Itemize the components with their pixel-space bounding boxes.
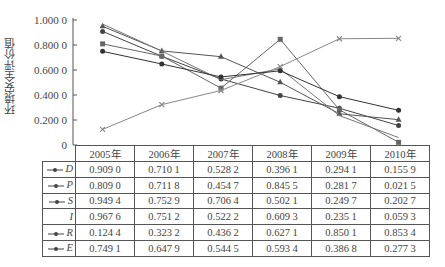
series-line-p bbox=[103, 39, 399, 142]
table-cell: 0.967 6 bbox=[76, 209, 135, 225]
table-cell: 0.386 8 bbox=[312, 240, 371, 256]
table-header-cell: 2010年 bbox=[371, 146, 430, 162]
table-cell: 0.751 2 bbox=[135, 209, 194, 225]
table-row: R0.124 40.323 20.436 20.627 10.850 10.85… bbox=[43, 225, 430, 241]
legend-entry-i: I bbox=[43, 209, 76, 225]
table-cell: 0.124 4 bbox=[76, 225, 135, 241]
table-cell: 0.609 3 bbox=[253, 209, 312, 225]
series-line-i bbox=[103, 24, 399, 138]
series-line-s bbox=[103, 26, 399, 119]
data-point-s bbox=[396, 116, 402, 122]
legend-entry-d: D bbox=[43, 162, 76, 178]
table-cell: 0.059 3 bbox=[371, 209, 430, 225]
series-line-e bbox=[103, 51, 399, 110]
y-tick-label: 0.400 0 bbox=[34, 89, 68, 101]
table-row: P0.809 00.711 80.454 70.845 50.281 70.02… bbox=[43, 177, 430, 193]
legend-marker-icon bbox=[48, 228, 64, 239]
legend-marker-icon bbox=[48, 180, 64, 191]
y-axis-label: 环境安全评价值 bbox=[2, 22, 18, 132]
data-point-e bbox=[278, 68, 283, 73]
data-point-e bbox=[337, 94, 342, 99]
table-cell: 0.710 1 bbox=[135, 162, 194, 178]
data-point-p bbox=[278, 37, 283, 42]
table-cell: 0.454 7 bbox=[194, 177, 253, 193]
series-line-r bbox=[103, 38, 399, 129]
table-cell: 0.294 1 bbox=[312, 162, 371, 178]
table-cell: 0.544 5 bbox=[194, 240, 253, 256]
data-table: 2005年2006年2007年2008年2009年2010年 D0.909 00… bbox=[42, 145, 430, 257]
table-cell: 0.202 7 bbox=[371, 193, 430, 209]
legend-entry-p: P bbox=[43, 177, 76, 193]
legend-label: D bbox=[63, 163, 73, 174]
legend-label: P bbox=[64, 179, 73, 190]
data-point-p bbox=[100, 41, 105, 46]
y-tick-label: 0.200 0 bbox=[34, 114, 68, 126]
data-point-d bbox=[100, 29, 105, 34]
table-cell: 0.249 7 bbox=[312, 193, 371, 209]
table-cell: 0.850 1 bbox=[312, 225, 371, 241]
data-point-s bbox=[100, 23, 106, 29]
y-tick-label: 0.800 0 bbox=[34, 39, 68, 51]
table-cell: 0.706 4 bbox=[194, 193, 253, 209]
table-cell: 0.396 1 bbox=[253, 162, 312, 178]
table-cell: 0.845 5 bbox=[253, 177, 312, 193]
data-point-e bbox=[159, 62, 164, 67]
table-cell: 0.593 4 bbox=[253, 240, 312, 256]
legend-label: R bbox=[64, 227, 73, 238]
table-cell: 0.323 2 bbox=[135, 225, 194, 241]
legend-label: I bbox=[70, 211, 74, 222]
table-header-cell: 2006年 bbox=[135, 146, 194, 162]
table-header-row: 2005年2006年2007年2008年2009年2010年 bbox=[43, 146, 430, 162]
table-header-cell: 2005年 bbox=[76, 146, 135, 162]
table-row: E0.749 10.647 90.544 50.593 40.386 80.27… bbox=[43, 240, 430, 256]
table-cell: 0.281 7 bbox=[312, 177, 371, 193]
table-row: I0.967 60.751 20.522 20.609 30.235 10.05… bbox=[43, 209, 430, 225]
data-point-e bbox=[396, 108, 401, 113]
table-cell: 0.647 9 bbox=[135, 240, 194, 256]
data-point-d bbox=[396, 123, 401, 128]
table-header-cell: 2009年 bbox=[312, 146, 371, 162]
table-cell: 0.711 8 bbox=[135, 177, 194, 193]
table-cell: 0.436 2 bbox=[194, 225, 253, 241]
legend-marker-icon bbox=[47, 164, 63, 175]
table-header-cell: 2008年 bbox=[253, 146, 312, 162]
table-cell: 0.277 3 bbox=[371, 240, 430, 256]
table-cell: 0.752 9 bbox=[135, 193, 194, 209]
legend-marker-icon bbox=[48, 243, 64, 254]
table-corner bbox=[43, 146, 76, 162]
table-row: S0.949 40.752 90.706 40.502 10.249 70.20… bbox=[43, 193, 430, 209]
data-point-e bbox=[219, 74, 224, 79]
table-cell: 0.949 4 bbox=[76, 193, 135, 209]
table-cell: 0.627 1 bbox=[253, 225, 312, 241]
legend-entry-s: S bbox=[43, 193, 76, 209]
legend-label: S bbox=[65, 195, 73, 206]
table-header-cell: 2007年 bbox=[194, 146, 253, 162]
table-cell: 0.235 1 bbox=[312, 209, 371, 225]
table-cell: 0.522 2 bbox=[194, 209, 253, 225]
y-tick-label: 1.000 0 bbox=[34, 14, 68, 26]
table-row: D0.909 00.710 10.528 20.396 10.294 10.15… bbox=[43, 162, 430, 178]
legend-marker-icon bbox=[49, 196, 65, 207]
data-point-s bbox=[218, 53, 224, 59]
table-cell: 0.021 5 bbox=[371, 177, 430, 193]
table-cell: 0.853 4 bbox=[371, 225, 430, 241]
y-tick-label: 0.600 0 bbox=[34, 64, 68, 76]
table-cell: 0.909 0 bbox=[76, 162, 135, 178]
data-point-e bbox=[100, 49, 105, 54]
table-cell: 0.749 1 bbox=[76, 240, 135, 256]
legend-entry-e: E bbox=[43, 240, 76, 256]
legend-entry-r: R bbox=[43, 225, 76, 241]
table-cell: 0.528 2 bbox=[194, 162, 253, 178]
table-cell: 0.155 9 bbox=[371, 162, 430, 178]
table-cell: 0.809 0 bbox=[76, 177, 135, 193]
data-point-d bbox=[278, 93, 283, 98]
table-cell: 0.502 1 bbox=[253, 193, 312, 209]
data-point-p bbox=[159, 54, 164, 59]
legend-label: E bbox=[64, 242, 73, 253]
